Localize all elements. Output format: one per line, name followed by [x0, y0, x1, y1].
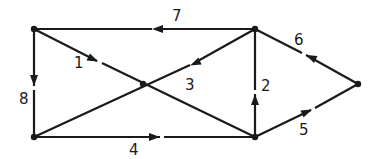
node-b: [252, 26, 258, 32]
edge-8: 8: [19, 29, 38, 137]
node-c: [140, 81, 146, 87]
node-e: [252, 134, 258, 140]
edge-7: 7: [34, 7, 255, 33]
directed-graph-diagram: 7 8 1 3 2 4 6: [0, 0, 381, 159]
arrow-diagonal-up-right-icon: [301, 110, 313, 118]
arrow-right-icon: [149, 133, 160, 141]
edge-label-4: 4: [129, 141, 139, 159]
edge-label-8: 8: [19, 90, 29, 108]
edge-2: 2: [251, 29, 271, 137]
arrow-diagonal-down-right-icon: [87, 54, 99, 62]
arrow-left-icon: [152, 25, 163, 33]
edge-label-6: 6: [294, 31, 304, 49]
edge-4: 4: [34, 133, 255, 159]
arrow-down-icon: [30, 75, 38, 86]
edge-6: 6: [255, 29, 358, 84]
node-f: [355, 81, 361, 87]
arrow-up-icon: [251, 94, 259, 105]
edge-label-3: 3: [185, 76, 195, 94]
node-a: [31, 26, 37, 32]
arrow-diagonal-up-left-icon: [306, 55, 318, 63]
edge-label-2: 2: [261, 77, 271, 95]
node-d: [31, 134, 37, 140]
edge-label-5: 5: [299, 121, 309, 139]
edge-label-7: 7: [172, 7, 182, 25]
edge-label-1: 1: [74, 54, 84, 72]
